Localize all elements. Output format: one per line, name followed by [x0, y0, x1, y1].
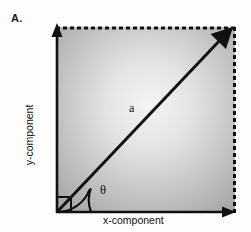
- vector-magnitude-label: a: [129, 101, 134, 116]
- vector-diagram-figure: A. a θ x-component y-component: [0, 0, 251, 232]
- vector-diagram-graphic: [0, 0, 251, 232]
- theta-angle-label: θ: [100, 183, 106, 198]
- x-axis-label: x-component: [103, 214, 164, 226]
- y-axis-label: y-component: [23, 89, 35, 181]
